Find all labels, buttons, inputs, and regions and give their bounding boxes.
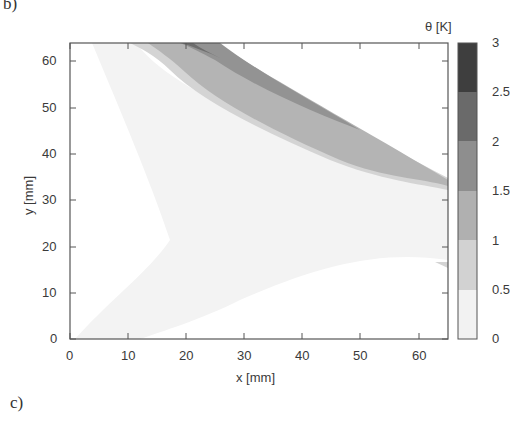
cb-tick-2: 2 — [492, 134, 499, 149]
y-tick-40: 40 — [42, 146, 56, 161]
x-tick-10: 10 — [121, 348, 135, 363]
x-tick-60: 60 — [412, 348, 426, 363]
y-tick-50: 50 — [42, 100, 56, 115]
x-tick-20: 20 — [179, 348, 193, 363]
x-tick-0: 0 — [66, 348, 73, 363]
y-tick-10: 10 — [42, 285, 56, 300]
panel-label-c: c) — [10, 393, 23, 413]
cb-tick-2.5: 2.5 — [492, 84, 510, 99]
contour-fill — [75, 43, 448, 339]
level-1-spot — [435, 262, 448, 268]
y-tick-60: 60 — [42, 53, 56, 68]
colorbar — [458, 43, 477, 339]
x-tick-50: 50 — [353, 348, 367, 363]
cb-tick-1.5: 1.5 — [492, 183, 510, 198]
cb-tick-0: 0 — [492, 331, 499, 346]
colorbar-title: θ [K] — [425, 19, 452, 34]
cb-tick-0.5: 0.5 — [492, 282, 510, 297]
cb-tick-1: 1 — [492, 233, 499, 248]
y-tick-30: 30 — [42, 192, 56, 207]
y-tick-0: 0 — [50, 331, 57, 346]
cb-tick-3: 3 — [492, 35, 499, 50]
contour-plot — [0, 0, 520, 423]
y-tick-20: 20 — [42, 239, 56, 254]
x-tick-30: 30 — [237, 348, 251, 363]
x-axis-title: x [mm] — [236, 370, 275, 385]
y-axis-title: y [mm] — [21, 166, 36, 226]
x-tick-40: 40 — [295, 348, 309, 363]
